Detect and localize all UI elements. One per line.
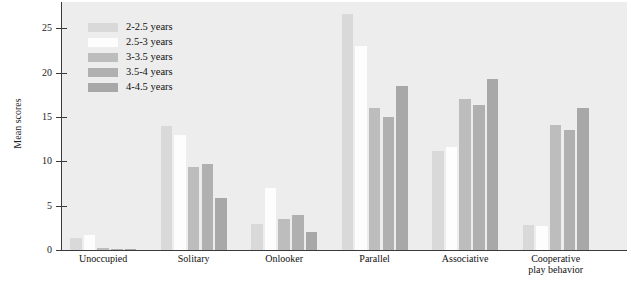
- bar-chart: Mean scores 0510152025 2-2.5 years2.5-3 …: [0, 0, 631, 281]
- x-axis-category-label: Cooperative play behavior: [511, 253, 601, 275]
- legend-label: 3-3.5 years: [126, 52, 173, 63]
- legend-swatch-icon: [88, 53, 118, 62]
- x-axis-category-label: Unoccupied: [58, 253, 148, 264]
- bar: [577, 108, 589, 250]
- legend-item: 3.5-4 years: [88, 67, 173, 77]
- bar: [550, 125, 562, 250]
- bar: [174, 135, 186, 250]
- bar: [215, 198, 227, 250]
- legend-swatch-icon: [88, 38, 118, 47]
- bar: [84, 235, 96, 250]
- x-axis-category-label: Parallel: [330, 253, 420, 264]
- legend-swatch-icon: [88, 68, 118, 77]
- y-tick-label: 10: [22, 156, 52, 166]
- bar: [265, 188, 277, 250]
- bar: [536, 226, 548, 250]
- bar: [251, 224, 263, 250]
- legend-label: 2.5-3 years: [126, 37, 173, 48]
- y-tick-mark: [56, 161, 67, 162]
- y-tick-mark: [56, 73, 67, 74]
- x-axis-line: [61, 250, 627, 251]
- bar: [369, 108, 381, 250]
- legend-swatch-icon: [88, 23, 118, 32]
- x-axis-category-label: Associative: [420, 253, 510, 264]
- legend-label: 2-2.5 years: [126, 22, 173, 33]
- legend-swatch-icon: [88, 83, 118, 92]
- bar: [473, 105, 485, 250]
- y-tick-mark: [56, 28, 67, 29]
- bar: [202, 164, 214, 250]
- bar: [161, 126, 173, 250]
- y-tick-mark: [56, 117, 67, 118]
- bar: [306, 232, 318, 250]
- y-tick-label: 20: [22, 68, 52, 78]
- y-tick-label: 25: [22, 23, 52, 33]
- legend-item: 4-4.5 years: [88, 82, 173, 92]
- bar: [355, 46, 367, 250]
- legend-label: 3.5-4 years: [126, 67, 173, 78]
- bar: [523, 225, 535, 250]
- y-tick-mark: [56, 250, 67, 251]
- chart-legend: 2-2.5 years2.5-3 years3-3.5 years3.5-4 y…: [88, 22, 173, 92]
- y-tick-label: 0: [22, 245, 52, 255]
- y-axis-title: Mean scores: [12, 79, 23, 169]
- bar: [383, 117, 395, 250]
- legend-item: 2-2.5 years: [88, 22, 173, 32]
- bar: [432, 151, 444, 250]
- legend-item: 2.5-3 years: [88, 37, 173, 47]
- bar: [292, 215, 304, 250]
- bar: [459, 99, 471, 250]
- bar: [278, 219, 290, 250]
- bar: [564, 130, 576, 250]
- bar: [487, 79, 499, 250]
- bar: [396, 86, 408, 250]
- x-axis-category-label: Onlooker: [239, 253, 329, 264]
- x-axis-category-label: Solitary: [149, 253, 239, 264]
- y-tick-mark: [56, 206, 67, 207]
- y-tick-label: 5: [22, 201, 52, 211]
- bar: [446, 147, 458, 250]
- bar: [342, 14, 354, 250]
- legend-item: 3-3.5 years: [88, 52, 173, 62]
- bar: [188, 167, 200, 250]
- y-tick-label: 15: [22, 112, 52, 122]
- y-axis-line: [61, 2, 62, 251]
- bar: [70, 238, 82, 250]
- legend-label: 4-4.5 years: [126, 82, 173, 93]
